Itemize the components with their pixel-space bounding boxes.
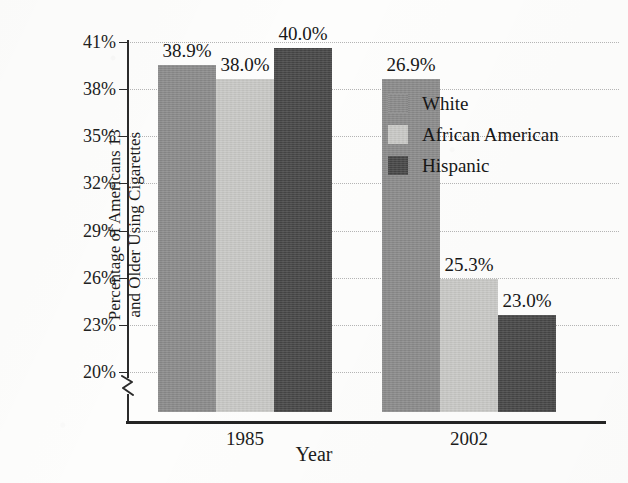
legend-item-african-american[interactable]: African American <box>388 119 559 150</box>
bar-value-label: 23.0% <box>502 290 551 312</box>
bar-texture <box>440 279 498 412</box>
legend-swatch-icon <box>388 156 408 175</box>
x-axis-spine <box>126 421 606 424</box>
bar-2002-african-american[interactable]: 25.3% <box>440 279 498 412</box>
bar-texture <box>158 65 216 412</box>
legend-item-white[interactable]: White <box>388 88 559 119</box>
bar-value-label: 26.9% <box>386 54 435 76</box>
cropped-title-fragment: .... <box>252 0 298 2</box>
bar-1985-hispanic[interactable]: 40.0% <box>274 48 332 412</box>
bar-1985-african-american[interactable]: 38.0% <box>216 79 274 412</box>
y-axis-title-line2: and Older Using Cigarettes <box>125 60 145 390</box>
bar-value-label: 38.9% <box>162 40 211 62</box>
bar-value-label: 25.3% <box>444 254 493 276</box>
bar-texture <box>216 79 274 412</box>
y-axis-title-line1: Percentage of Americans 13 <box>105 60 125 390</box>
bar-texture <box>274 48 332 412</box>
legend-swatch-texture <box>388 125 408 144</box>
y-axis-title: Percentage of Americans 13 and Older Usi… <box>105 60 144 390</box>
bar-value-label: 38.0% <box>220 54 269 76</box>
chart-legend: WhiteAfrican AmericanHispanic <box>388 88 559 181</box>
legend-label: African American <box>422 124 559 146</box>
x-axis-title: Year <box>0 443 628 466</box>
legend-swatch-texture <box>388 156 408 175</box>
y-tick-mark <box>119 42 127 43</box>
legend-item-hispanic[interactable]: Hispanic <box>388 150 559 181</box>
legend-swatch-icon <box>388 94 408 113</box>
bar-texture <box>498 315 556 412</box>
bar-1985-white[interactable]: 38.9% <box>158 65 216 412</box>
legend-label: Hispanic <box>422 155 490 177</box>
bar-value-label: 40.0% <box>278 23 327 45</box>
bar-2002-hispanic[interactable]: 23.0% <box>498 315 556 412</box>
y-tick-label: 41% <box>83 32 116 53</box>
legend-swatch-icon <box>388 125 408 144</box>
bar-chart-figure: .... 41%38%35%32%29%26%23%20% 38.9%38.0%… <box>0 0 628 483</box>
legend-swatch-texture <box>388 94 408 113</box>
legend-label: White <box>422 93 468 115</box>
y-axis-spine-lower <box>127 394 129 422</box>
